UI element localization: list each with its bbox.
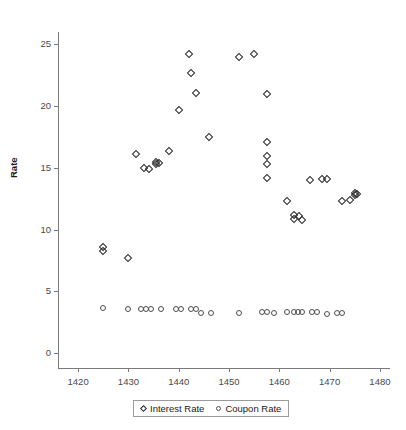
diamond-marker-icon	[140, 405, 147, 412]
x-tick	[279, 368, 280, 372]
data-point-diamond	[263, 160, 271, 168]
data-point-circle	[264, 309, 270, 315]
data-point-diamond	[323, 175, 331, 183]
y-tick-label: 25	[7, 39, 51, 49]
legend-entry[interactable]: Interest Rate	[141, 403, 204, 414]
x-tick	[330, 368, 331, 372]
data-point-diamond	[132, 150, 140, 158]
data-point-diamond	[124, 254, 132, 262]
x-tick	[128, 368, 129, 372]
x-tick-label: 1470	[307, 377, 353, 387]
data-point-diamond	[283, 197, 291, 205]
data-point-circle	[236, 310, 242, 316]
y-tick	[54, 168, 58, 169]
data-point-circle	[198, 310, 204, 316]
data-point-diamond	[263, 90, 271, 98]
data-point-diamond	[164, 146, 172, 154]
chart-title	[0, 0, 406, 2]
data-point-circle	[314, 309, 320, 315]
data-point-circle	[339, 310, 345, 316]
data-point-diamond	[263, 151, 271, 159]
y-tick	[54, 353, 58, 354]
x-tick-label: 1430	[105, 377, 151, 387]
data-point-diamond	[235, 52, 243, 60]
data-point-diamond	[187, 69, 195, 77]
x-tick	[229, 368, 230, 372]
y-tick-label: 10	[7, 225, 51, 235]
data-point-diamond	[263, 138, 271, 146]
legend-label: Interest Rate	[150, 403, 204, 414]
data-point-circle	[148, 306, 154, 312]
x-tick	[78, 368, 79, 372]
data-point-circle	[208, 310, 214, 316]
data-point-circle	[299, 309, 305, 315]
plot-area	[58, 32, 390, 368]
data-point-circle	[158, 306, 164, 312]
x-tick-label: 1420	[55, 377, 101, 387]
legend-entry[interactable]: Coupon Rate	[216, 403, 281, 414]
data-point-diamond	[174, 106, 182, 114]
y-tick	[54, 106, 58, 107]
scatter-plot-figure: Rate 0510152025 142014301440145014601470…	[0, 0, 406, 430]
circle-marker-icon	[216, 406, 221, 411]
y-tick-label: 5	[7, 286, 51, 296]
x-tick	[179, 368, 180, 372]
data-point-diamond	[250, 50, 258, 58]
y-tick-label: 15	[7, 163, 51, 173]
data-point-diamond	[205, 133, 213, 141]
legend-label: Coupon Rate	[225, 403, 281, 414]
y-axis-line	[58, 32, 59, 368]
data-point-circle	[100, 305, 106, 311]
data-point-diamond	[263, 174, 271, 182]
data-point-diamond	[192, 88, 200, 96]
data-point-diamond	[185, 50, 193, 58]
y-tick-label: 0	[7, 348, 51, 358]
data-point-circle	[125, 306, 131, 312]
y-tick	[54, 291, 58, 292]
y-tick	[54, 44, 58, 45]
data-point-circle	[271, 310, 277, 316]
data-point-diamond	[305, 176, 313, 184]
y-tick	[54, 230, 58, 231]
x-tick-label: 1480	[357, 377, 403, 387]
data-point-circle	[324, 311, 330, 317]
x-tick-label: 1440	[156, 377, 202, 387]
data-point-circle	[178, 306, 184, 312]
x-tick-label: 1450	[206, 377, 252, 387]
x-tick-label: 1460	[256, 377, 302, 387]
x-tick	[380, 368, 381, 372]
x-axis-line	[58, 368, 390, 369]
data-point-diamond	[338, 197, 346, 205]
data-point-circle	[284, 309, 290, 315]
y-tick-label: 20	[7, 101, 51, 111]
chart-legend: Interest RateCoupon Rate	[133, 400, 289, 417]
